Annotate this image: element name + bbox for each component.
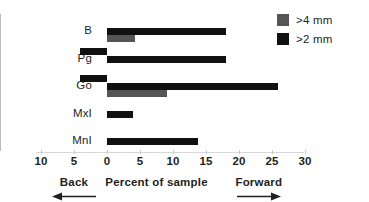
bar-back-2mm: [80, 75, 107, 82]
axis-caption-forward: Forward: [235, 176, 282, 188]
axis-tick: [173, 150, 174, 154]
axis-tick-label: 10: [35, 155, 48, 167]
category-label: B: [0, 24, 92, 36]
axis-tick-label: 10: [167, 155, 180, 167]
axis-tick: [107, 150, 108, 154]
axis-tick: [74, 150, 75, 154]
axis-tick-label: 5: [137, 155, 143, 167]
axis-tick-label: 20: [233, 155, 246, 167]
category-label: Go: [0, 79, 92, 91]
bar-forward-2mm: [107, 83, 278, 90]
bar-forward-2mm: [107, 111, 133, 118]
x-axis: 105051015202530BackPercent of sampleForw…: [0, 150, 369, 202]
axis-tick-label: 15: [200, 155, 213, 167]
axis-tick-label: 30: [299, 155, 312, 167]
bar-forward-4mm: [107, 90, 167, 97]
bar-forward-2mm: [107, 138, 198, 145]
arrow-right-icon: [237, 192, 281, 201]
bar-forward-2mm: [107, 28, 226, 35]
category-label: MxI: [0, 107, 92, 119]
axis-tick: [140, 150, 141, 154]
axis-tick: [239, 150, 240, 154]
legend-item: >2 mm: [277, 31, 363, 47]
axis-line: [36, 152, 304, 153]
category-label: MnI: [0, 134, 92, 146]
axis-tick: [206, 150, 207, 154]
black-square-icon: [277, 33, 289, 45]
axis-tick-label: 25: [266, 155, 279, 167]
bar-forward-2mm: [107, 56, 226, 63]
bar-chart: BPgGoMxIMnI 105051015202530BackPercent o…: [0, 0, 369, 202]
axis-tick: [305, 150, 306, 154]
axis-tick-label: 0: [104, 155, 110, 167]
bar-forward-4mm: [107, 35, 135, 42]
axis-tick: [41, 150, 42, 154]
axis-caption-center: Percent of sample: [105, 176, 207, 188]
axis-tick: [272, 150, 273, 154]
legend-item-label: >2 mm: [296, 33, 332, 45]
category-label: Pg: [0, 52, 92, 64]
bar-back-2mm: [80, 48, 107, 55]
legend-item: >4 mm: [277, 12, 363, 28]
legend-item-label: >4 mm: [296, 14, 332, 26]
legend: >4 mm >2 mm: [277, 12, 363, 50]
gray-square-icon: [277, 14, 289, 26]
arrow-left-icon: [52, 192, 96, 201]
axis-caption-back: Back: [60, 176, 88, 188]
axis-tick-label: 5: [71, 155, 77, 167]
